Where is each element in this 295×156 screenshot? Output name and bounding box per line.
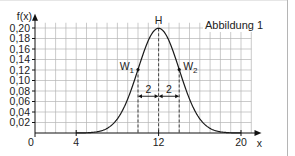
x-tick-label: 4 (73, 136, 79, 148)
y-tick-label: 0,08 (10, 85, 31, 97)
distance-label: 2 (145, 83, 151, 95)
chart-title: Abbildung 1 (205, 19, 263, 31)
y-tick-label: 0,18 (10, 32, 31, 44)
maximum-point-label: H (155, 14, 163, 26)
y-tick-label: 0,16 (10, 43, 31, 55)
x-axis-arrow-icon (254, 130, 261, 136)
inflection-point-marker (136, 68, 139, 71)
x-tick-label: 12 (153, 136, 165, 148)
y-axis-arrow-icon (32, 14, 38, 21)
y-tick-label: 0,06 (10, 95, 31, 107)
y-tick-label: 0,04 (10, 106, 31, 118)
x-axis-label: x (257, 137, 263, 149)
arrowhead-left-icon (159, 94, 163, 98)
normal-distribution-chart: 0,020,040,060,080,100,120,140,160,180,20… (0, 0, 295, 156)
y-tick-label: 0,20 (10, 22, 31, 34)
y-tick-label: 0,10 (10, 74, 31, 86)
arrowhead-right-icon (175, 94, 179, 98)
inflection-point-label-1: W1 (120, 60, 135, 75)
frame-right-border (287, 0, 288, 156)
inflection-point-label-2: W2 (183, 60, 198, 75)
inflection-point-marker (178, 68, 181, 71)
y-tick-label: 0,12 (10, 64, 31, 76)
y-tick-label: 0,02 (10, 116, 31, 128)
y-axis-label: f(x) (17, 10, 32, 22)
distance-label: 2 (166, 83, 172, 95)
y-tick-label: 0,14 (10, 53, 31, 65)
x-tick-label: 0 (28, 136, 34, 148)
x-tick-label: 20 (235, 136, 247, 148)
arrowhead-right-icon (155, 94, 159, 98)
arrowhead-left-icon (138, 94, 142, 98)
